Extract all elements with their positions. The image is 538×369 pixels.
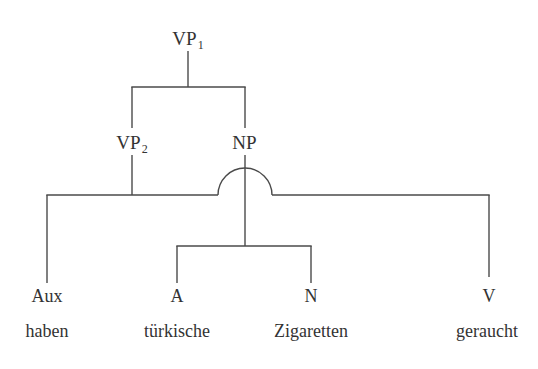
node-np: NP (232, 133, 257, 152)
terminal-word-geraucht: geraucht (456, 322, 518, 340)
node-vp2-label: VP (116, 132, 140, 153)
terminal-word-tuerkische: türkische (144, 322, 210, 340)
terminal-category-v: V (483, 287, 496, 305)
terminal-category-aux: Aux (32, 287, 63, 305)
terminal-word-zigaretten: Zigaretten (274, 322, 348, 340)
node-vp1-label: VP (172, 28, 196, 49)
node-np-label: NP (232, 132, 256, 153)
node-vp1-subscript: 1 (197, 38, 204, 52)
terminal-category-n: N (305, 287, 318, 305)
terminal-word-haben: haben (26, 322, 69, 340)
node-vp1: VP1 (172, 29, 203, 48)
syntax-tree-diagram: VP1 VP2 NP Aux A N V haben türkische Zig… (0, 0, 538, 369)
node-vp2: VP2 (116, 133, 147, 152)
terminal-category-a: A (171, 287, 184, 305)
tree-lines (0, 0, 538, 369)
node-vp2-subscript: 2 (141, 142, 148, 156)
